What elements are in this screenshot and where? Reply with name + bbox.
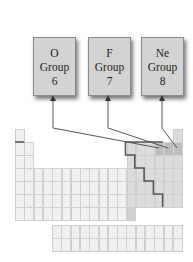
arrow-oxygen: [53, 98, 159, 148]
arrows-overlay: [0, 0, 193, 262]
metalloid-staircase-line: [126, 142, 163, 207]
arrow-neon: [162, 98, 177, 148]
